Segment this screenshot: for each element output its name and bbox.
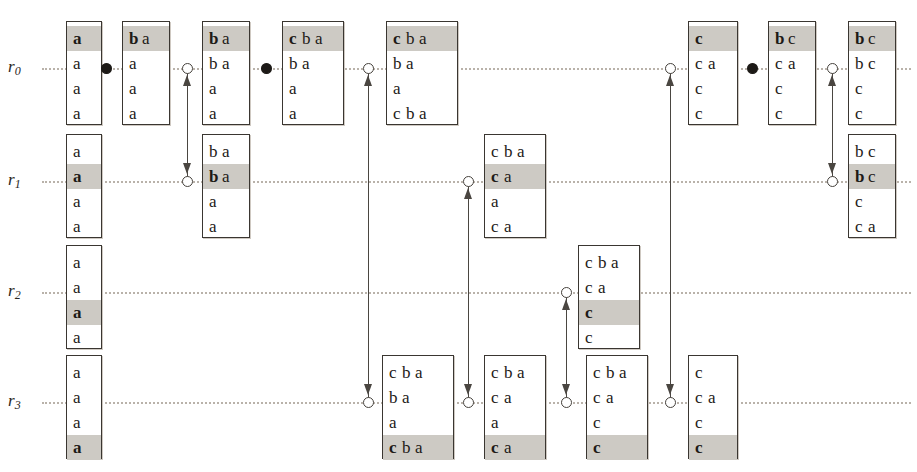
state-token: c [695, 51, 708, 76]
message-event-marker-icon[interactable] [827, 63, 838, 74]
state-token: c [775, 51, 788, 76]
state-line: ca [849, 214, 895, 239]
state-line: c [849, 189, 895, 214]
state-token: c [593, 360, 606, 385]
state-token: c [775, 101, 788, 126]
state-line: cba [383, 435, 453, 460]
message-event-marker-icon[interactable] [561, 287, 572, 298]
state-token: c [585, 325, 598, 350]
local-operation-marker-icon[interactable] [744, 60, 760, 76]
state-token: b [406, 101, 419, 126]
state-token: b [855, 139, 868, 164]
state-line: a [67, 26, 101, 51]
state-line: cba [387, 26, 457, 51]
replica-connector [670, 68, 671, 402]
state-line: a [67, 385, 101, 410]
state-token: c [491, 139, 504, 164]
state-box: aaaa [66, 355, 102, 459]
state-box: cbacaaca [484, 134, 546, 238]
state-box: cbacacc [586, 355, 648, 459]
message-event-marker-icon[interactable] [182, 176, 193, 187]
message-event-marker-icon[interactable] [665, 397, 676, 408]
state-line: cba [485, 360, 545, 385]
message-event-marker-icon[interactable] [463, 176, 474, 187]
local-operation-marker-icon[interactable] [258, 60, 274, 76]
state-line: a [203, 76, 249, 101]
state-box: cbacacc [578, 245, 640, 349]
state-token: c [695, 410, 708, 435]
state-line: ba [203, 51, 249, 76]
state-token: b [289, 51, 302, 76]
state-token: a [73, 164, 86, 189]
message-event-marker-icon[interactable] [561, 397, 572, 408]
state-token: c [868, 26, 881, 51]
state-line: a [203, 101, 249, 126]
state-line: c [689, 26, 737, 51]
state-line: ca [485, 214, 545, 239]
state-token: a [209, 76, 222, 101]
state-line: c [769, 76, 815, 101]
state-token: c [868, 51, 881, 76]
state-token: b [606, 360, 619, 385]
state-token: a [504, 385, 517, 410]
state-line: a [67, 325, 101, 350]
state-line: a [203, 214, 249, 239]
state-token: a [289, 101, 302, 126]
state-token: c [491, 435, 504, 460]
state-line: ba [123, 26, 169, 51]
message-event-marker-icon[interactable] [827, 176, 838, 187]
state-line: a [67, 164, 101, 189]
state-line: c [689, 360, 737, 385]
state-token: a [222, 51, 235, 76]
timeline-r2 [42, 292, 911, 294]
message-event-marker-icon[interactable] [182, 63, 193, 74]
state-box: cbabaaa [282, 21, 344, 125]
state-token: c [393, 26, 406, 51]
state-line: c [689, 76, 737, 101]
arrowhead-down-icon [828, 163, 836, 174]
message-event-marker-icon[interactable] [665, 63, 676, 74]
state-token: b [129, 26, 142, 51]
state-token: b [389, 385, 402, 410]
state-line: a [123, 51, 169, 76]
state-token: a [73, 360, 86, 385]
message-event-marker-icon[interactable] [363, 397, 374, 408]
row-label-base: r [8, 170, 15, 189]
state-token: a [315, 26, 328, 51]
state-token: b [855, 26, 868, 51]
state-token: c [855, 214, 868, 239]
state-line: a [123, 76, 169, 101]
state-token: c [289, 26, 302, 51]
arrowhead-down-icon [364, 384, 372, 395]
state-line: cba [485, 139, 545, 164]
state-line: a [67, 410, 101, 435]
state-token: c [695, 76, 708, 101]
state-line: cba [387, 101, 457, 126]
state-token: c [868, 164, 881, 189]
state-token: a [491, 410, 504, 435]
state-line: c [579, 300, 639, 325]
state-box: cbabaacba [382, 355, 454, 459]
state-line: a [283, 76, 343, 101]
state-line: ca [689, 385, 737, 410]
state-token: a [504, 164, 517, 189]
state-line: cba [579, 250, 639, 275]
state-line: a [67, 51, 101, 76]
state-token: a [402, 385, 415, 410]
state-token: c [868, 139, 881, 164]
state-line: ca [485, 435, 545, 460]
state-line: a [67, 189, 101, 214]
diagram-canvas: r0r1r2r3aaaabaaaababaaacbabaaacbabaacbac… [0, 0, 917, 472]
state-token: b [504, 139, 517, 164]
state-token: a [868, 214, 881, 239]
state-line: bc [849, 51, 895, 76]
message-event-marker-icon[interactable] [463, 397, 474, 408]
state-token: b [209, 51, 222, 76]
state-line: a [485, 410, 545, 435]
state-token: c [393, 101, 406, 126]
state-line: bc [849, 139, 895, 164]
state-line: ca [485, 164, 545, 189]
message-event-marker-icon[interactable] [363, 63, 374, 74]
state-token: a [504, 214, 517, 239]
state-token: b [775, 26, 788, 51]
